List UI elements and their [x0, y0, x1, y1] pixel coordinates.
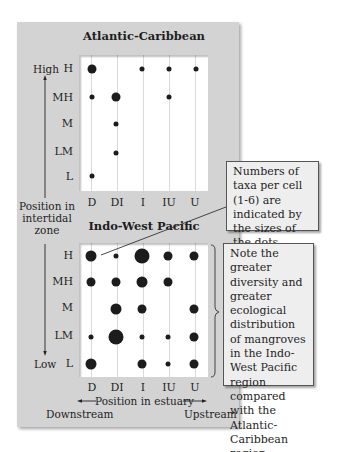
dot-ac-h-d [88, 65, 97, 74]
dot-ac-h-iu [167, 67, 172, 72]
dot-ac-m-di [114, 122, 119, 127]
dot-iwp-mh-i [137, 277, 148, 288]
dot-iwp-h-d [86, 251, 97, 262]
dot-iwp-l-iu [166, 362, 171, 367]
dot-iwp-m-di [111, 304, 122, 315]
dot-iwp-lm-d [89, 335, 94, 340]
dot-iwp-m-u [190, 305, 199, 314]
dot-iwp-mh-iu [164, 278, 173, 287]
dot-ac-mh-di [112, 93, 121, 102]
dot-iwp-lm-di [109, 330, 124, 345]
dot-iwp-h-i [135, 249, 150, 264]
dot-iwp-m-i [138, 305, 147, 314]
dot-ac-mh-d [90, 95, 95, 100]
dot-iwp-mh-di [112, 278, 121, 287]
dot-ac-mh-iu [167, 95, 172, 100]
dot-iwp-l-u [190, 360, 199, 369]
dot-size-legend-callout: Numbers of taxa per cell (1-6) are indic… [226, 161, 319, 231]
dot-iwp-lm-i [140, 335, 145, 340]
dot-iwp-l-i [138, 360, 147, 369]
dot-ac-lm-di [114, 151, 119, 156]
dot-ac-l-d [90, 174, 95, 179]
dot-iwp-mh-d [87, 278, 96, 287]
comparison-note-callout: Note the greater diversity and greater e… [223, 243, 314, 386]
dot-iwp-lm-iu [166, 335, 171, 340]
dot-iwp-h-u [190, 252, 199, 261]
dot-iwp-h-di [114, 254, 119, 259]
dot-iwp-l-d [86, 359, 97, 370]
dot-iwp-lm-u [190, 333, 199, 342]
dot-ac-h-u [194, 67, 199, 72]
dot-ac-h-i [140, 67, 145, 72]
dot-iwp-h-iu [164, 252, 173, 261]
